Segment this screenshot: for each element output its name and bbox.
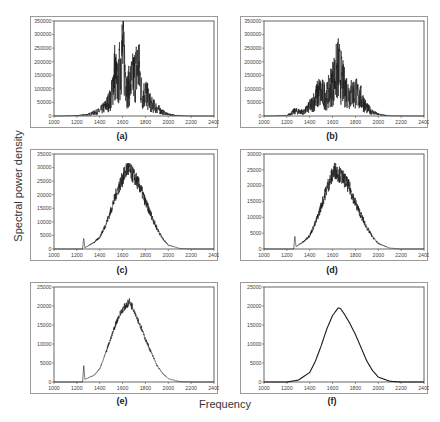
svg-text:0: 0	[49, 246, 52, 252]
panel-f: 0500010000150002000025000100012001400160…	[240, 282, 428, 394]
svg-text:300000: 300000	[244, 31, 261, 37]
svg-text:20000: 20000	[37, 192, 52, 198]
svg-text:1400: 1400	[94, 119, 106, 125]
svg-text:200000: 200000	[34, 59, 51, 65]
svg-text:1600: 1600	[327, 252, 339, 258]
svg-text:15000: 15000	[247, 322, 262, 328]
svg-text:2200: 2200	[185, 252, 197, 258]
svg-text:1800: 1800	[350, 119, 362, 125]
plot-c: 0500010000150002000025000300003500010001…	[31, 150, 219, 262]
subplot-label-b: (b)	[312, 131, 352, 141]
svg-text:1400: 1400	[304, 252, 316, 258]
svg-text:25000: 25000	[247, 167, 262, 173]
svg-text:1800: 1800	[140, 385, 152, 391]
subplot-label-c: (c)	[102, 265, 142, 275]
subplot-label-d: (d)	[312, 265, 352, 275]
svg-text:1600: 1600	[117, 252, 129, 258]
svg-text:2400: 2400	[418, 119, 429, 125]
plot-b: 0500001000001500002000002500003000003500…	[241, 17, 429, 129]
plot-d: 0500010000150002000025000300001000120014…	[241, 150, 429, 262]
svg-text:350000: 350000	[34, 18, 51, 24]
svg-text:2400: 2400	[208, 252, 219, 258]
panel-d: 0500010000150002000025000300001000120014…	[240, 149, 428, 261]
svg-text:2000: 2000	[163, 252, 175, 258]
svg-text:1800: 1800	[140, 252, 152, 258]
subplot-label-f: (f)	[312, 396, 352, 406]
svg-text:1000: 1000	[48, 119, 60, 125]
svg-text:0: 0	[49, 379, 52, 385]
svg-text:30000: 30000	[247, 151, 262, 157]
svg-text:2200: 2200	[395, 252, 407, 258]
subplot-label-a: (a)	[102, 131, 142, 141]
svg-text:150000: 150000	[244, 72, 261, 78]
svg-text:15000: 15000	[37, 205, 52, 211]
svg-text:1000: 1000	[48, 385, 60, 391]
svg-text:1800: 1800	[350, 252, 362, 258]
svg-text:1600: 1600	[117, 385, 129, 391]
svg-text:10000: 10000	[37, 219, 52, 225]
svg-text:5000: 5000	[250, 230, 262, 236]
svg-text:2400: 2400	[208, 385, 219, 391]
svg-text:2000: 2000	[373, 385, 385, 391]
plot-e: 0500010000150002000025000100012001400160…	[31, 283, 219, 395]
svg-text:25000: 25000	[247, 284, 262, 290]
svg-text:2000: 2000	[163, 119, 175, 125]
svg-text:350000: 350000	[244, 18, 261, 24]
svg-text:1800: 1800	[350, 385, 362, 391]
panel-e: 0500010000150002000025000100012001400160…	[30, 282, 218, 394]
svg-text:100000: 100000	[244, 86, 261, 92]
svg-text:15000: 15000	[37, 322, 52, 328]
svg-text:2400: 2400	[208, 119, 219, 125]
svg-text:5000: 5000	[40, 360, 52, 366]
svg-text:2400: 2400	[418, 385, 429, 391]
y-axis-label: Spectral power density	[12, 106, 24, 266]
svg-text:2200: 2200	[395, 119, 407, 125]
svg-text:1400: 1400	[94, 385, 106, 391]
svg-text:150000: 150000	[34, 72, 51, 78]
svg-text:1000: 1000	[258, 385, 270, 391]
svg-text:0: 0	[259, 246, 262, 252]
svg-text:1600: 1600	[117, 119, 129, 125]
svg-text:1000: 1000	[258, 119, 270, 125]
svg-text:1400: 1400	[304, 385, 316, 391]
plot-f: 0500010000150002000025000100012001400160…	[241, 283, 429, 395]
svg-text:1000: 1000	[48, 252, 60, 258]
svg-text:1200: 1200	[71, 252, 83, 258]
svg-text:1200: 1200	[71, 385, 83, 391]
svg-text:2000: 2000	[373, 119, 385, 125]
svg-text:250000: 250000	[34, 45, 51, 51]
svg-text:1400: 1400	[304, 119, 316, 125]
svg-text:25000: 25000	[37, 284, 52, 290]
svg-text:10000: 10000	[247, 341, 262, 347]
svg-text:1200: 1200	[281, 252, 293, 258]
svg-text:35000: 35000	[37, 151, 52, 157]
svg-text:2200: 2200	[185, 119, 197, 125]
svg-text:5000: 5000	[40, 232, 52, 238]
svg-text:20000: 20000	[247, 182, 262, 188]
svg-text:2200: 2200	[395, 385, 407, 391]
panel-a: 0500001000001500002000002500003000003500…	[30, 16, 218, 128]
svg-text:2000: 2000	[163, 385, 175, 391]
svg-text:1600: 1600	[327, 119, 339, 125]
svg-text:2400: 2400	[418, 252, 429, 258]
svg-text:1200: 1200	[281, 385, 293, 391]
svg-text:100000: 100000	[34, 86, 51, 92]
svg-text:1800: 1800	[140, 119, 152, 125]
svg-text:1000: 1000	[258, 252, 270, 258]
svg-text:0: 0	[49, 113, 52, 119]
svg-text:10000: 10000	[247, 214, 262, 220]
svg-text:25000: 25000	[37, 178, 52, 184]
svg-text:0: 0	[259, 379, 262, 385]
svg-text:10000: 10000	[37, 341, 52, 347]
svg-text:200000: 200000	[244, 59, 261, 65]
svg-text:20000: 20000	[247, 303, 262, 309]
svg-text:250000: 250000	[244, 45, 261, 51]
svg-text:50000: 50000	[247, 99, 262, 105]
panel-c: 0500010000150002000025000300003500010001…	[30, 149, 218, 261]
svg-text:5000: 5000	[250, 360, 262, 366]
svg-text:50000: 50000	[37, 99, 52, 105]
svg-text:15000: 15000	[247, 198, 262, 204]
subplot-label-e: (e)	[102, 396, 142, 406]
svg-text:1400: 1400	[94, 252, 106, 258]
svg-text:30000: 30000	[37, 164, 52, 170]
